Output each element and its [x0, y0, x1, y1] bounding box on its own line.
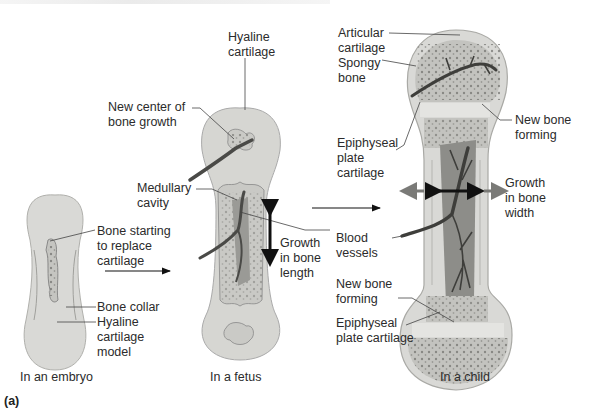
label-growth-in-bone-width: Growth in bone width: [505, 176, 546, 221]
label-bone-starting-to-replace-cartilage: Bone starting to replace cartilage: [97, 224, 171, 269]
stage-label-child: In a child: [440, 370, 490, 384]
label-spongy-bone: Spongy bone: [338, 56, 380, 86]
label-articular-cartilage: Articular cartilage: [338, 26, 385, 56]
panel-label: (a): [4, 394, 19, 408]
label-new-bone-forming-top: New bone forming: [515, 113, 571, 143]
label-medullary-cavity: Medullary cavity: [137, 181, 191, 211]
stage-label-fetus: In a fetus: [210, 370, 261, 384]
label-hyaline-cartilage: Hyaline cartilage: [228, 30, 275, 60]
label-epiphyseal-plate-cartilage-bottom: Epiphyseal plate cartilage: [336, 316, 414, 346]
label-bone-collar: Bone collar: [97, 300, 160, 315]
label-epiphyseal-plate-cartilage-top: Epiphyseal plate cartilage: [337, 136, 398, 181]
label-growth-in-bone-length: Growth in bone length: [280, 236, 321, 281]
embryo-cartilage-model: [24, 195, 86, 370]
label-blood-vessels: Blood vessels: [336, 231, 378, 261]
label-new-center-of-bone-growth: New center of bone growth: [108, 100, 185, 130]
child-bone: [400, 30, 512, 390]
label-new-bone-forming-bottom: New bone forming: [336, 277, 392, 307]
stage-label-embryo: In an embryo: [20, 370, 93, 384]
fetus-bone: [190, 108, 280, 360]
label-hyaline-cartilage-model: Hyaline cartilage model: [97, 315, 144, 360]
